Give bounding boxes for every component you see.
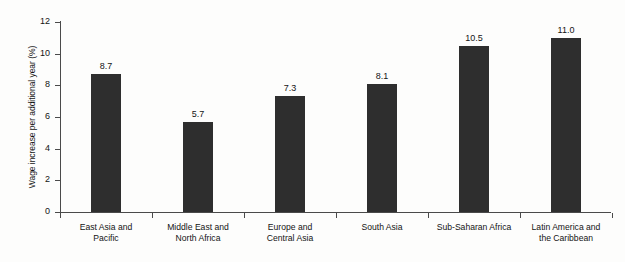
x-tick-mark [520, 213, 521, 218]
y-tick-label-text: 6 [28, 112, 50, 121]
category-label-line: Pacific [60, 233, 152, 244]
x-tick-mark [60, 213, 61, 218]
x-tick-mark [612, 213, 613, 218]
y-tick-label-text: 10 [28, 49, 50, 58]
y-tick-mark [55, 180, 60, 181]
y-tick-label: 4 [28, 144, 50, 154]
bar [459, 46, 489, 212]
category-label-line: the Caribbean [520, 233, 612, 244]
y-tick-mark [55, 54, 60, 55]
y-tick-label: 8 [28, 80, 50, 90]
y-tick-label: 12 [28, 17, 50, 27]
y-tick-mark [55, 117, 60, 118]
category-label: Europe andCentral Asia [244, 222, 336, 244]
y-tick-mark [55, 22, 60, 23]
bar [183, 122, 213, 212]
bar [275, 96, 305, 212]
category-label: Latin America andthe Caribbean [520, 222, 612, 244]
y-tick-label-text: 12 [28, 17, 50, 26]
category-label: South Asia [336, 222, 428, 233]
bar-chart-figure: Wage increase per additional year (%) 02… [0, 0, 625, 262]
y-tick-label-text: 0 [28, 207, 50, 216]
category-label: East Asia andPacific [60, 222, 152, 244]
bar [551, 38, 581, 212]
category-label: Middle East andNorth Africa [152, 222, 244, 244]
y-tick-label: 0 [28, 207, 50, 217]
category-label-line: Sub-Saharan Africa [428, 222, 520, 233]
y-tick-label: 6 [28, 112, 50, 122]
category-label-line: Middle East and [152, 222, 244, 233]
y-axis-line [60, 21, 61, 213]
y-tick-label-text: 2 [28, 175, 50, 184]
category-label-line: Latin America and [520, 222, 612, 233]
category-label: Sub-Saharan Africa [428, 222, 520, 233]
category-label-line: North Africa [152, 233, 244, 244]
y-tick-label-text: 4 [28, 144, 50, 153]
y-tick-mark [55, 85, 60, 86]
x-tick-mark [244, 213, 245, 218]
bar-value-label: 10.5 [444, 33, 504, 43]
y-tick-label-text: 8 [28, 80, 50, 89]
category-label-line: Central Asia [244, 233, 336, 244]
bar [367, 84, 397, 212]
bar-value-label: 8.7 [76, 61, 136, 71]
x-tick-mark [152, 213, 153, 218]
x-tick-mark [428, 213, 429, 218]
bar-value-label: 11.0 [536, 25, 596, 35]
y-tick-mark [55, 149, 60, 150]
category-label-line: East Asia and [60, 222, 152, 233]
category-label-line: South Asia [336, 222, 428, 233]
bar-value-label: 5.7 [168, 109, 228, 119]
bar-value-label: 7.3 [260, 83, 320, 93]
bar [91, 74, 121, 212]
bar-value-label: 8.1 [352, 71, 412, 81]
category-label-line: Europe and [244, 222, 336, 233]
x-tick-mark [336, 213, 337, 218]
y-tick-label: 10 [28, 49, 50, 59]
y-tick-label: 2 [28, 175, 50, 185]
